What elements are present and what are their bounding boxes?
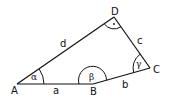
vertex-label-c: C bbox=[153, 64, 160, 75]
angle-arc-delta bbox=[104, 24, 121, 29]
side-label-b: b bbox=[122, 79, 128, 90]
side-label-c: c bbox=[137, 35, 143, 46]
angle-label-alpha: α bbox=[31, 72, 37, 82]
right-angle-dot bbox=[113, 23, 115, 25]
vertex-label-b: B bbox=[90, 86, 97, 97]
vertex-label-d: D bbox=[111, 6, 119, 17]
side-label-d: d bbox=[60, 38, 66, 49]
angle-arc-alpha bbox=[39, 69, 44, 84]
side-c bbox=[114, 17, 150, 68]
side-label-a: a bbox=[53, 85, 59, 96]
quadrilateral-diagram: α β γ A B C D a b c d bbox=[0, 0, 170, 99]
angle-label-gamma: γ bbox=[136, 59, 141, 69]
vertex-label-a: A bbox=[11, 85, 18, 96]
angle-label-beta: β bbox=[89, 72, 94, 82]
